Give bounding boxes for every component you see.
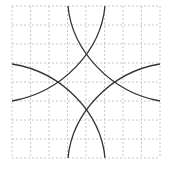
arc (68, 64, 160, 158)
arc (68, 6, 160, 101)
grid (12, 6, 160, 158)
arcs-diagram (0, 0, 169, 170)
arc (12, 64, 105, 158)
arc (12, 6, 105, 101)
